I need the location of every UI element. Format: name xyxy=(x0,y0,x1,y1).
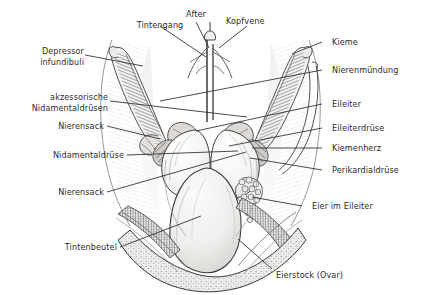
label-akzessorische-nidamentaldruesen-line1: akzessorische xyxy=(0,92,108,102)
label-nierensack-unten: Nierensack xyxy=(0,187,104,197)
label-tintengang: Tintengang xyxy=(100,20,220,30)
label-perikardialdruese: Perikardialdrüse xyxy=(332,165,399,175)
head-vein xyxy=(188,48,232,78)
label-after: After xyxy=(156,9,236,19)
label-nierenmuendung: Nierenmündung xyxy=(332,65,399,75)
label-kieme: Kieme xyxy=(332,37,358,47)
rectum-and-ink-duct xyxy=(190,22,230,122)
label-tintenbeutel: Tintenbeutel xyxy=(0,242,117,252)
label-nierensack-oben: Nierensack xyxy=(0,121,104,131)
label-eier-im-eileiter: Eier im Eileiter xyxy=(312,201,373,211)
label-eileiterdruese: Eileiterdrüse xyxy=(332,123,384,133)
label-eierstock-ovar: Eierstock (Ovar) xyxy=(276,270,343,280)
label-kiemenherz: Kiemenherz xyxy=(332,143,381,153)
label-depressor-infundibuli-line1: Depressor xyxy=(0,46,84,56)
label-akzessorische-nidamentaldruesen-line2: Nidamentaldrüsen xyxy=(0,103,108,113)
label-eileiter: Eileiter xyxy=(332,99,361,109)
label-nidamentaldruese: Nidamentaldrüse xyxy=(0,150,124,160)
anatomical-figure: Tintengang After Kopfvene Kieme Depresso… xyxy=(0,0,421,295)
label-depressor-infundibuli-line2: infundibuli xyxy=(0,57,84,67)
label-kopfvene: Kopfvene xyxy=(226,16,265,26)
